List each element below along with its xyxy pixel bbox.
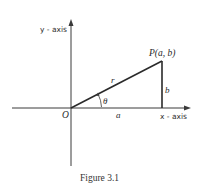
figure-caption: Figure 3.1 (80, 173, 119, 183)
y-axis-arrowhead-icon (69, 19, 74, 26)
point-label: P(a, b) (148, 48, 175, 59)
opposite-label: b (165, 85, 170, 95)
coordinate-diagram: y - axis P(a, b) r b θ O a x - axis Figu… (0, 0, 203, 195)
hypotenuse-label: r (111, 75, 115, 85)
adjacent-label: a (116, 110, 121, 120)
radius-line (71, 61, 162, 108)
y-axis-label: y - axis (40, 25, 67, 34)
angle-label: θ (103, 96, 108, 106)
x-axis-label: x - axis (160, 112, 187, 121)
angle-arc (98, 94, 102, 107)
origin-label: O (62, 110, 69, 120)
x-axis-arrowhead-icon (184, 106, 191, 111)
